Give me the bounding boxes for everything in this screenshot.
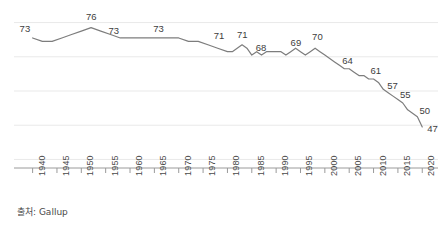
source-attribution: 출처: Gallup	[17, 205, 68, 218]
x-axis-ticks	[33, 168, 423, 173]
chart-plot-area	[0, 0, 439, 228]
data-series-line	[33, 28, 423, 127]
line-chart: 1940194519501955196019651970197519801985…	[0, 0, 439, 228]
gridlines	[14, 23, 438, 160]
